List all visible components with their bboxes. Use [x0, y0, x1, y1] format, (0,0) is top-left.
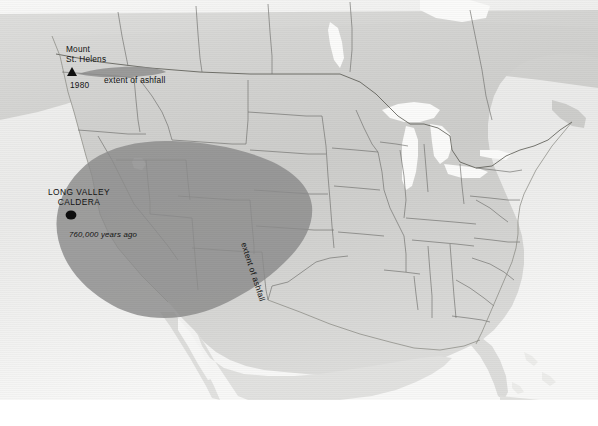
map-canvas	[0, 0, 598, 426]
ashfall-extent-map: Mount St. Helens 1980 extent of ashfall …	[0, 0, 598, 426]
scan-texture	[0, 0, 598, 400]
page-bottom-margin	[0, 400, 598, 426]
